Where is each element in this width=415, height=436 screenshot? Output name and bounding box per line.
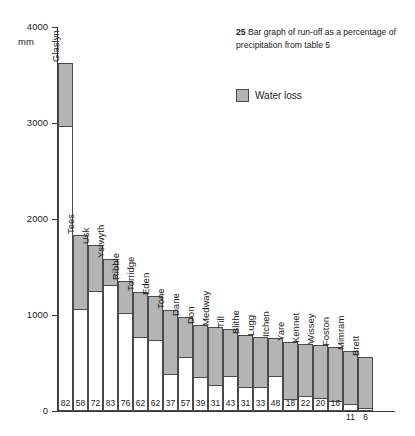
bar-tone: Tone37 bbox=[163, 310, 178, 411]
y-axis-unit-label: mm bbox=[18, 37, 48, 47]
legend-swatch-water-loss bbox=[236, 89, 249, 102]
bar-ribble: Ribble76 bbox=[118, 281, 133, 411]
bar-segment-water-loss bbox=[239, 336, 252, 388]
bar-foston: Foston16 bbox=[328, 347, 343, 411]
bar-label-kennet: Kennet bbox=[290, 313, 301, 343]
bar-segment-runoff bbox=[59, 127, 72, 410]
y-tick-mark-1000 bbox=[52, 315, 57, 316]
bar-brett: Brett6 bbox=[358, 357, 373, 411]
bar-value-medway: 31 bbox=[209, 399, 222, 408]
bar-tees: Tees58 bbox=[73, 235, 88, 411]
y-tick-label-4000: 4000 bbox=[0, 22, 48, 32]
bar-value-till: 43 bbox=[224, 399, 237, 408]
bar-label-glaslyn: Glaslyn bbox=[50, 31, 61, 63]
bar-value-wissey: 20 bbox=[314, 399, 327, 408]
bar-label-wissey: Wissey bbox=[305, 313, 316, 344]
bar-segment-water-loss bbox=[299, 345, 312, 397]
bar-value-ystwyth: 83 bbox=[104, 399, 117, 408]
plot-area: mm 40003000200010000 Glaslyn82Tees58Usk7… bbox=[0, 0, 415, 436]
bar-segment-water-loss bbox=[329, 348, 342, 402]
bar-segment-runoff bbox=[104, 286, 117, 410]
bar-label-mimram: Mimram bbox=[335, 315, 346, 349]
bar-segment-water-loss bbox=[194, 326, 207, 379]
bar-value-usk: 72 bbox=[89, 399, 102, 408]
y-tick-label-1000: 1000 bbox=[0, 310, 48, 320]
bar-don: Don39 bbox=[193, 325, 208, 411]
bar-mimram: Mimram11 bbox=[343, 351, 358, 411]
y-tick-mark-2000 bbox=[52, 219, 57, 220]
bar-value-lugg: 33 bbox=[254, 399, 267, 408]
y-tick-mark-0 bbox=[52, 411, 57, 412]
bar-ystwyth: Ystwyth83 bbox=[103, 259, 118, 411]
bar-value-blithe: 31 bbox=[239, 399, 252, 408]
bar-itchen: Itchen48 bbox=[268, 338, 283, 411]
bar-segment-water-loss bbox=[359, 358, 372, 408]
bar-medway: Medway31 bbox=[208, 327, 223, 411]
bar-value-ribble: 76 bbox=[119, 399, 132, 408]
bar-value-foston: 16 bbox=[329, 399, 342, 408]
bar-value-torridge: 62 bbox=[134, 399, 147, 408]
bar-segment-runoff bbox=[344, 405, 357, 410]
bar-value-tone: 37 bbox=[164, 399, 177, 408]
bar-segment-water-loss bbox=[164, 311, 177, 374]
bar-lugg: Lugg33 bbox=[253, 337, 268, 411]
bar-label-lugg: Lugg bbox=[245, 315, 256, 336]
caption-number: 25 bbox=[236, 27, 246, 37]
bar-value-brett: 6 bbox=[359, 413, 372, 422]
bar-segment-runoff bbox=[359, 409, 372, 410]
bar-segment-water-loss bbox=[209, 328, 222, 386]
figure-bar-graph-runoff: mm 40003000200010000 Glaslyn82Tees58Usk7… bbox=[0, 0, 415, 436]
bar-value-eden: 62 bbox=[149, 399, 162, 408]
bar-segment-water-loss bbox=[344, 352, 357, 406]
bar-glaslyn: Glaslyn82 bbox=[58, 63, 73, 411]
y-tick-label-2000: 2000 bbox=[0, 214, 48, 224]
bar-value-dane: 57 bbox=[179, 399, 192, 408]
bar-value-glaslyn: 82 bbox=[59, 399, 72, 408]
bar-dane: Dane57 bbox=[178, 317, 193, 411]
bar-segment-water-loss bbox=[314, 346, 327, 399]
bar-segment-water-loss bbox=[149, 297, 162, 341]
bar-value-yare: 18 bbox=[284, 399, 297, 408]
bar-segment-water-loss bbox=[119, 282, 132, 313]
y-tick-mark-3000 bbox=[52, 123, 57, 124]
bar-eden: Eden62 bbox=[148, 296, 163, 411]
bar-value-don: 39 bbox=[194, 399, 207, 408]
bar-segment-water-loss bbox=[254, 338, 267, 388]
bar-segment-water-loss bbox=[269, 339, 282, 377]
bar-blithe: Blithe31 bbox=[238, 335, 253, 411]
bar-value-mimram: 11 bbox=[344, 413, 357, 422]
bar-segment-water-loss bbox=[59, 64, 72, 126]
legend-label-water-loss: Water loss bbox=[255, 90, 302, 102]
bar-segment-runoff bbox=[74, 310, 87, 410]
y-tick-label-0: 0 bbox=[0, 406, 48, 416]
y-tick-label-3000: 3000 bbox=[0, 118, 48, 128]
bar-segment-runoff bbox=[89, 292, 102, 410]
bar-segment-water-loss bbox=[284, 343, 297, 400]
bar-segment-water-loss bbox=[179, 318, 192, 358]
bar-torridge: Torridge62 bbox=[133, 292, 148, 411]
bar-kennet: Kennet22 bbox=[298, 344, 313, 411]
x-axis-line bbox=[57, 411, 395, 412]
bar-segment-water-loss bbox=[104, 260, 117, 286]
bar-segment-water-loss bbox=[224, 330, 237, 376]
bar-label-itchen: Itchen bbox=[260, 311, 271, 337]
bar-value-itchen: 48 bbox=[269, 399, 282, 408]
bar-label-medway: Medway bbox=[200, 291, 211, 326]
figure-caption: 25 Bar graph of run-off as a percentage … bbox=[236, 26, 412, 51]
bar-value-kennet: 22 bbox=[299, 399, 312, 408]
legend: Water loss bbox=[236, 89, 302, 102]
bar-value-tees: 58 bbox=[74, 399, 87, 408]
y-tick-mark-4000 bbox=[52, 27, 57, 28]
bar-segment-water-loss bbox=[134, 293, 147, 338]
bar-till: Till43 bbox=[223, 329, 238, 411]
bar-wissey: Wissey20 bbox=[313, 345, 328, 411]
bar-yare: Yare18 bbox=[283, 342, 298, 411]
bar-segment-water-loss bbox=[89, 246, 102, 292]
bar-segment-runoff bbox=[119, 314, 132, 411]
caption-text: Bar graph of run-off as a percentage of … bbox=[236, 27, 396, 50]
bar-segment-water-loss bbox=[74, 236, 87, 310]
bar-usk: Usk72 bbox=[88, 245, 103, 411]
bar-label-foston: Foston bbox=[320, 317, 331, 346]
